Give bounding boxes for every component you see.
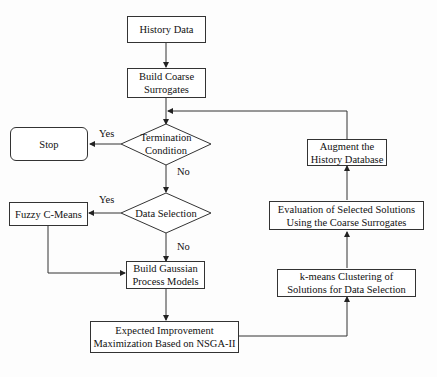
data-selection-yes-label: Yes xyxy=(99,194,114,205)
augment-history-box: Augment the History Database xyxy=(307,139,387,166)
build-coarse-line-2: Surrogates xyxy=(144,83,189,96)
expected-improvement-box: Expected Improvement Maximization Based … xyxy=(90,321,239,353)
termination-no-label: No xyxy=(177,166,190,177)
fuzzy-c-means-label: Fuzzy C-Means xyxy=(15,208,82,221)
stop-label: Stop xyxy=(39,138,58,151)
data-selection-label: Data Selection xyxy=(126,207,206,220)
stop-box: Stop xyxy=(10,127,88,161)
fuzzy-c-means-box: Fuzzy C-Means xyxy=(9,202,88,226)
build-coarse-surrogates-box: Build Coarse Surrogates xyxy=(127,68,206,98)
flowchart-canvas: History Data Build Coarse Surrogates Ter… xyxy=(0,0,437,377)
evaluation-box: Evaluation of Selected Solutions Using t… xyxy=(269,201,424,230)
kmeans-clustering-box: k-means Clustering of Solutions for Data… xyxy=(277,269,416,297)
history-data-box: History Data xyxy=(127,16,206,43)
termination-yes-label: Yes xyxy=(99,128,114,139)
history-data-label: History Data xyxy=(140,23,194,36)
termination-condition-label: Termination Condition xyxy=(131,131,201,157)
build-gaussian-process-box: Build Gaussian Process Models xyxy=(126,261,205,289)
data-selection-no-label: No xyxy=(177,241,190,252)
build-coarse-line-1: Build Coarse xyxy=(139,70,194,83)
